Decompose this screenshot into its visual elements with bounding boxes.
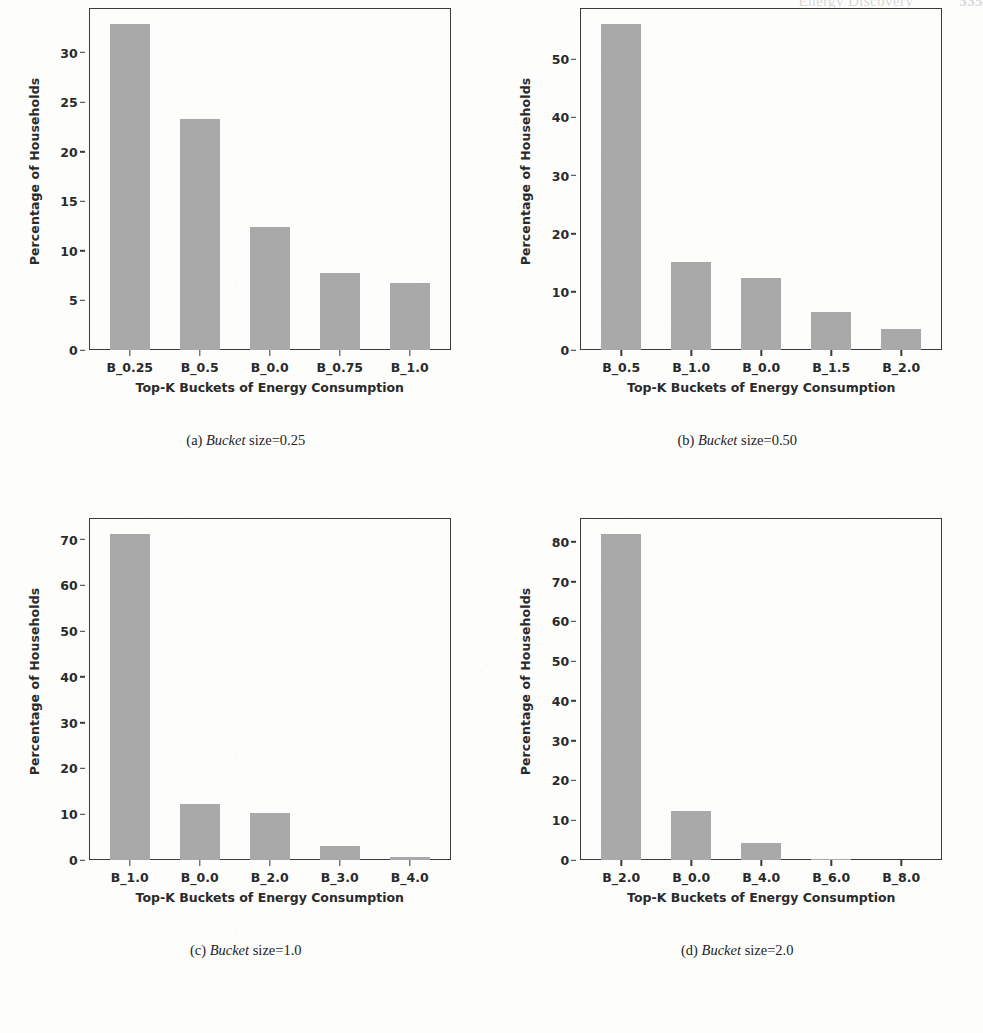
y-tick-label: 30 bbox=[60, 45, 84, 60]
x-tick-label: B_4.0 bbox=[726, 870, 796, 885]
x-tick-label: B_1.5 bbox=[796, 360, 866, 375]
bar bbox=[110, 534, 150, 860]
bar bbox=[320, 273, 360, 350]
bar-cell bbox=[796, 8, 866, 350]
figure-panel-c: Percentage of Households 010203040506070… bbox=[0, 510, 492, 1033]
y-tick-label: 30 bbox=[552, 733, 576, 748]
y-tick-label: 80 bbox=[552, 534, 576, 549]
x-tick-label: B_0.25 bbox=[95, 360, 165, 375]
y-tick-label: 40 bbox=[552, 693, 576, 708]
x-tick-label: B_0.0 bbox=[165, 870, 235, 885]
bar-cell bbox=[656, 8, 726, 350]
y-tick-label: 40 bbox=[552, 110, 576, 125]
x-tick-label: B_1.0 bbox=[656, 360, 726, 375]
x-axis-labels-d: B_2.0B_0.0B_4.0B_6.0B_8.0 bbox=[580, 870, 942, 885]
x-tick-label: B_0.0 bbox=[235, 360, 305, 375]
x-tick-label: B_0.5 bbox=[586, 360, 656, 375]
bar bbox=[180, 119, 220, 350]
chart-c: Percentage of Households 010203040506070… bbox=[31, 510, 461, 902]
bar-cell bbox=[586, 518, 656, 860]
y-tick-label: 0 bbox=[561, 343, 577, 358]
panel-caption-value-d: size=2.0 bbox=[745, 942, 794, 958]
y-tick-label: 10 bbox=[552, 284, 576, 299]
x-axis-title-c: Top-K Buckets of Energy Consumption bbox=[89, 890, 451, 905]
x-tick-label: B_0.75 bbox=[305, 360, 375, 375]
x-tick-label: B_2.0 bbox=[235, 870, 305, 885]
x-axis-title-d: Top-K Buckets of Energy Consumption bbox=[580, 890, 942, 905]
x-axis-title-b: Top-K Buckets of Energy Consumption bbox=[580, 380, 942, 395]
bar-cell bbox=[165, 518, 235, 860]
panel-caption-label-d: (d) bbox=[681, 942, 698, 958]
y-tick-label: 70 bbox=[60, 532, 84, 547]
bar-cell bbox=[866, 8, 936, 350]
bar bbox=[741, 843, 781, 860]
bar bbox=[671, 262, 711, 350]
bar bbox=[601, 534, 641, 860]
panel-caption-b: (b) Bucket size=0.50 bbox=[522, 432, 952, 449]
panel-caption-keyword-b: Bucket bbox=[698, 432, 737, 448]
x-axis-labels-b: B_0.5B_1.0B_0.0B_1.5B_2.0 bbox=[580, 360, 942, 375]
panel-caption-value-c: size=1.0 bbox=[253, 942, 302, 958]
x-axis-labels-c: B_1.0B_0.0B_2.0B_3.0B_4.0 bbox=[89, 870, 451, 885]
y-tick-label: 30 bbox=[552, 168, 576, 183]
bar-series-c bbox=[89, 518, 451, 860]
panel-caption-a: (a) Bucket size=0.25 bbox=[31, 432, 461, 449]
panel-caption-value-b: size=0.50 bbox=[741, 432, 797, 448]
bar-series-d bbox=[580, 518, 942, 860]
bar-cell bbox=[165, 8, 235, 350]
y-tick-label: 0 bbox=[561, 853, 577, 868]
bar bbox=[250, 227, 290, 350]
x-tick-label: B_3.0 bbox=[305, 870, 375, 885]
y-tick-label: 20 bbox=[60, 761, 84, 776]
bar bbox=[250, 813, 290, 860]
x-tick-label: B_8.0 bbox=[866, 870, 936, 885]
y-tick-label: 5 bbox=[69, 293, 85, 308]
x-tick-label: B_1.0 bbox=[375, 360, 445, 375]
y-tick-label: 50 bbox=[552, 52, 576, 67]
x-tick-label: B_6.0 bbox=[796, 870, 866, 885]
bar-cell bbox=[656, 518, 726, 860]
bar bbox=[110, 24, 150, 350]
y-tick-label: 30 bbox=[60, 715, 84, 730]
x-tick-label: B_0.0 bbox=[656, 870, 726, 885]
bar-cell bbox=[95, 8, 165, 350]
y-axis-ticks-c: 010203040506070 bbox=[37, 518, 85, 860]
chart-a: Percentage of Households 051015202530 B_… bbox=[31, 0, 461, 392]
y-tick-label: 10 bbox=[552, 813, 576, 828]
y-tick-label: 10 bbox=[60, 243, 84, 258]
bar-cell bbox=[305, 518, 375, 860]
bar-cell bbox=[726, 8, 796, 350]
x-axis-title-a: Top-K Buckets of Energy Consumption bbox=[89, 380, 451, 395]
y-tick-label: 40 bbox=[60, 669, 84, 684]
y-tick-label: 50 bbox=[552, 654, 576, 669]
figure-panel-a: Percentage of Households 051015202530 B_… bbox=[0, 0, 492, 510]
y-tick-label: 0 bbox=[69, 343, 85, 358]
chart-b: Percentage of Households 01020304050 B_0… bbox=[522, 0, 952, 392]
bar-cell bbox=[726, 518, 796, 860]
chart-d: Percentage of Households 010203040506070… bbox=[522, 510, 952, 902]
y-tick-label: 10 bbox=[60, 807, 84, 822]
y-tick-label: 15 bbox=[60, 194, 84, 209]
bar bbox=[741, 278, 781, 350]
x-tick-label: B_0.5 bbox=[165, 360, 235, 375]
figure-panel-b: Percentage of Households 01020304050 B_0… bbox=[492, 0, 983, 510]
panel-caption-value-a: size=0.25 bbox=[249, 432, 305, 448]
y-axis-ticks-b: 01020304050 bbox=[528, 8, 576, 350]
figure-panel-d: Percentage of Households 010203040506070… bbox=[492, 510, 983, 1033]
bar bbox=[180, 804, 220, 860]
bar-cell bbox=[866, 518, 936, 860]
panel-caption-c: (c) Bucket size=1.0 bbox=[31, 942, 461, 959]
y-tick-label: 20 bbox=[552, 226, 576, 241]
panel-caption-keyword-c: Bucket bbox=[210, 942, 249, 958]
x-tick-label: B_4.0 bbox=[375, 870, 445, 885]
bar-cell bbox=[586, 8, 656, 350]
y-tick-label: 70 bbox=[552, 574, 576, 589]
y-tick-label: 60 bbox=[552, 614, 576, 629]
x-tick-label: B_1.0 bbox=[95, 870, 165, 885]
bar-cell bbox=[796, 518, 866, 860]
bar bbox=[320, 846, 360, 860]
bar-series-a bbox=[89, 8, 451, 350]
y-tick-label: 50 bbox=[60, 624, 84, 639]
bar-series-b bbox=[580, 8, 942, 350]
y-axis-ticks-d: 01020304050607080 bbox=[528, 518, 576, 860]
